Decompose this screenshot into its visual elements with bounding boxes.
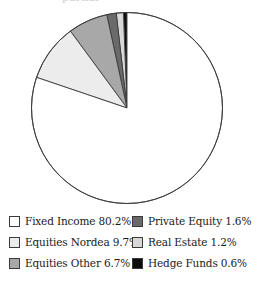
legend-equities-other-swatch	[9, 258, 20, 269]
legend-label: Equities Other 6.7%	[25, 258, 130, 269]
legend-real-estate: Real Estate 1.2%	[132, 232, 259, 253]
legend-private-equity-swatch	[132, 216, 143, 227]
pie-chart-plot-area	[0, 0, 264, 212]
legend-real-estate-swatch	[132, 237, 143, 248]
pie-chart-figure: partial Fixed Income 80.2% Private Equit…	[0, 0, 264, 283]
legend-equities-other: Equities Other 6.7%	[9, 253, 132, 274]
legend-equities-nordea: Equities Nordea 9.7%	[9, 232, 132, 253]
pie-chart-svg	[0, 0, 264, 212]
legend-label: Hedge Funds 0.6%	[148, 258, 247, 269]
legend-equities-nordea-swatch	[9, 237, 20, 248]
legend-label: Fixed Income 80.2%	[25, 216, 131, 227]
legend-label: Equities Nordea 9.7%	[25, 237, 139, 248]
legend-private-equity: Private Equity 1.6%	[132, 211, 259, 232]
chart-legend: Fixed Income 80.2% Private Equity 1.6% E…	[9, 211, 259, 275]
legend-label: Private Equity 1.6%	[148, 216, 251, 227]
legend-hedge-funds: Hedge Funds 0.6%	[132, 253, 259, 274]
legend-hedge-funds-swatch	[132, 258, 143, 269]
legend-fixed-income-swatch	[9, 216, 20, 227]
legend-label: Real Estate 1.2%	[148, 237, 237, 248]
legend-fixed-income: Fixed Income 80.2%	[9, 211, 132, 232]
